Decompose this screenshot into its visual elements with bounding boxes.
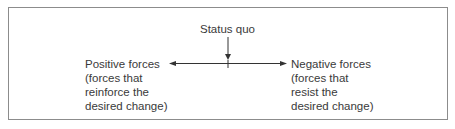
positive-forces-line: desired change) — [85, 99, 167, 113]
negative-forces-line: desired change) — [291, 99, 373, 113]
positive-forces-line: reinforce the — [85, 85, 167, 99]
positive-forces-label: Positive forces (forces that reinforce t… — [85, 57, 167, 113]
horizontal-axis — [169, 60, 287, 68]
right-arrowhead-icon — [280, 61, 287, 66]
status-quo-arrow-icon — [225, 37, 231, 60]
negative-forces-label: Negative forces (forces that resist the … — [291, 57, 373, 113]
left-arrowhead-icon — [169, 61, 176, 66]
positive-forces-line: Positive forces — [85, 57, 167, 71]
negative-forces-line: (forces that — [291, 71, 373, 85]
positive-forces-line: (forces that — [85, 71, 167, 85]
negative-forces-line: resist the — [291, 85, 373, 99]
force-arrows — [0, 0, 455, 129]
negative-forces-line: Negative forces — [291, 57, 373, 71]
